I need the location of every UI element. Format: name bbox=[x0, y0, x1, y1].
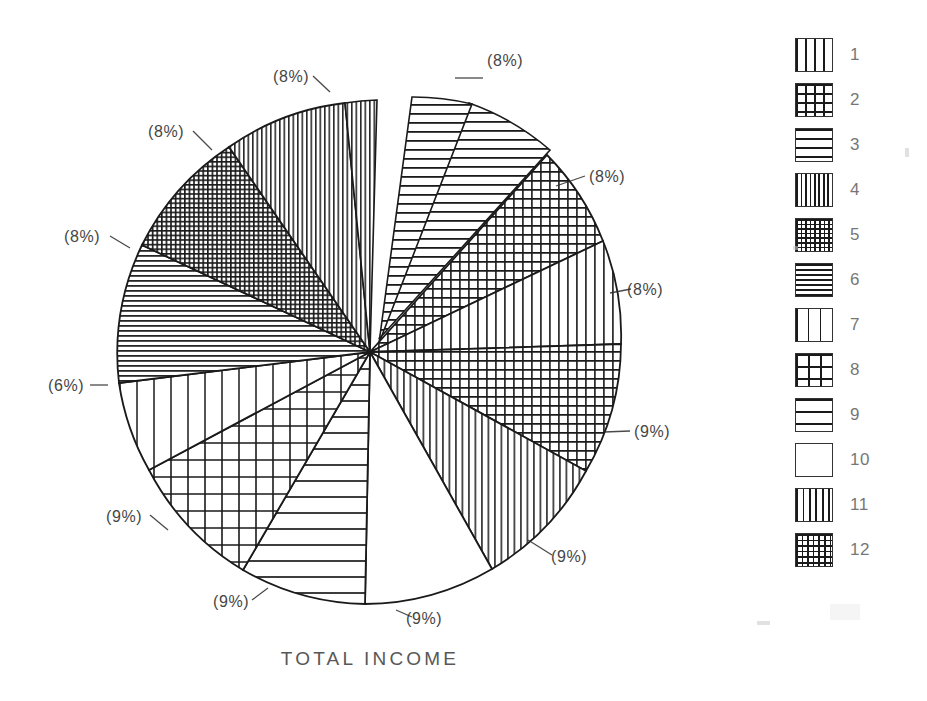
legend-swatch-vertical-lines-icon bbox=[795, 38, 833, 72]
legend-item-10[interactable]: 10 bbox=[795, 437, 915, 482]
pie-chart-svg bbox=[0, 0, 760, 640]
pie-label-8: (9%) bbox=[106, 508, 142, 526]
scan-speckle bbox=[793, 246, 798, 250]
legend-label-3: 3 bbox=[850, 135, 860, 155]
legend-item-5[interactable]: 5 bbox=[795, 212, 915, 257]
scan-speckle bbox=[905, 148, 909, 157]
pie-label-12: (8%) bbox=[273, 68, 309, 86]
legend-label-6: 6 bbox=[850, 270, 860, 290]
legend-item-4[interactable]: 4 bbox=[795, 167, 915, 212]
legend-swatch-vertical-lines-dense-icon bbox=[795, 173, 833, 207]
legend-swatch-grid-wide-icon bbox=[795, 353, 833, 387]
legend-item-8[interactable]: 8 bbox=[795, 347, 915, 392]
legend-item-2[interactable]: 2 bbox=[795, 77, 915, 122]
legend-item-12[interactable]: 12 bbox=[795, 527, 915, 572]
legend-label-10: 10 bbox=[850, 450, 870, 470]
pie-chart-area: (8%) (8%) (8%) (9%) (9%) (9%) (9%) (9%) … bbox=[0, 0, 760, 640]
legend-swatch-vertical-lines-wide-icon bbox=[795, 308, 833, 342]
legend-label-5: 5 bbox=[850, 225, 860, 245]
legend-item-3[interactable]: 3 bbox=[795, 122, 915, 167]
pie-label-2: (8%) bbox=[589, 168, 625, 186]
pie-label-6: (9%) bbox=[406, 610, 442, 628]
pie-label-3: (8%) bbox=[627, 281, 663, 299]
legend-item-1[interactable]: 1 bbox=[795, 32, 915, 77]
legend-swatch-vertical-lines-medium-icon bbox=[795, 488, 833, 522]
pie-label-4: (9%) bbox=[634, 423, 670, 441]
pie-label-11: (8%) bbox=[148, 123, 184, 141]
legend-item-7[interactable]: 7 bbox=[795, 302, 915, 347]
chart-title: TOTAL INCOME bbox=[0, 648, 740, 670]
legend-swatch-horizontal-lines-icon bbox=[795, 128, 833, 162]
legend-label-8: 8 bbox=[850, 360, 860, 380]
legend-label-7: 7 bbox=[850, 315, 860, 335]
legend-label-4: 4 bbox=[850, 180, 860, 200]
pie-label-7: (9%) bbox=[213, 593, 249, 611]
legend-label-1: 1 bbox=[850, 45, 860, 65]
legend-swatch-grid-icon bbox=[795, 83, 833, 117]
chart-legend: 1 2 3 4 5 6 7 8 bbox=[795, 32, 915, 572]
legend-swatch-horizontal-lines-wide-icon bbox=[795, 398, 833, 432]
legend-label-11: 11 bbox=[850, 495, 869, 515]
pie-label-5: (9%) bbox=[551, 548, 587, 566]
legend-swatch-blank-icon bbox=[795, 443, 833, 477]
legend-item-6[interactable]: 6 bbox=[795, 257, 915, 302]
pie-label-10: (8%) bbox=[64, 228, 100, 246]
legend-swatch-grid-dense-2-icon bbox=[795, 533, 833, 567]
legend-swatch-horizontal-lines-dense-icon bbox=[795, 263, 833, 297]
pie-slices bbox=[117, 97, 621, 604]
pie-chart-figure: (8%) (8%) (8%) (9%) (9%) (9%) (9%) (9%) … bbox=[0, 0, 927, 701]
legend-item-11[interactable]: 11 bbox=[795, 482, 915, 527]
legend-item-9[interactable]: 9 bbox=[795, 392, 915, 437]
scan-speckle bbox=[830, 604, 860, 620]
legend-swatch-grid-dense-icon bbox=[795, 218, 833, 252]
pie-label-1: (8%) bbox=[487, 52, 523, 70]
legend-label-9: 9 bbox=[850, 405, 860, 425]
pie-label-9: (6%) bbox=[48, 377, 84, 395]
legend-label-12: 12 bbox=[850, 540, 870, 560]
scan-speckle bbox=[757, 621, 770, 625]
legend-label-2: 2 bbox=[850, 90, 860, 110]
